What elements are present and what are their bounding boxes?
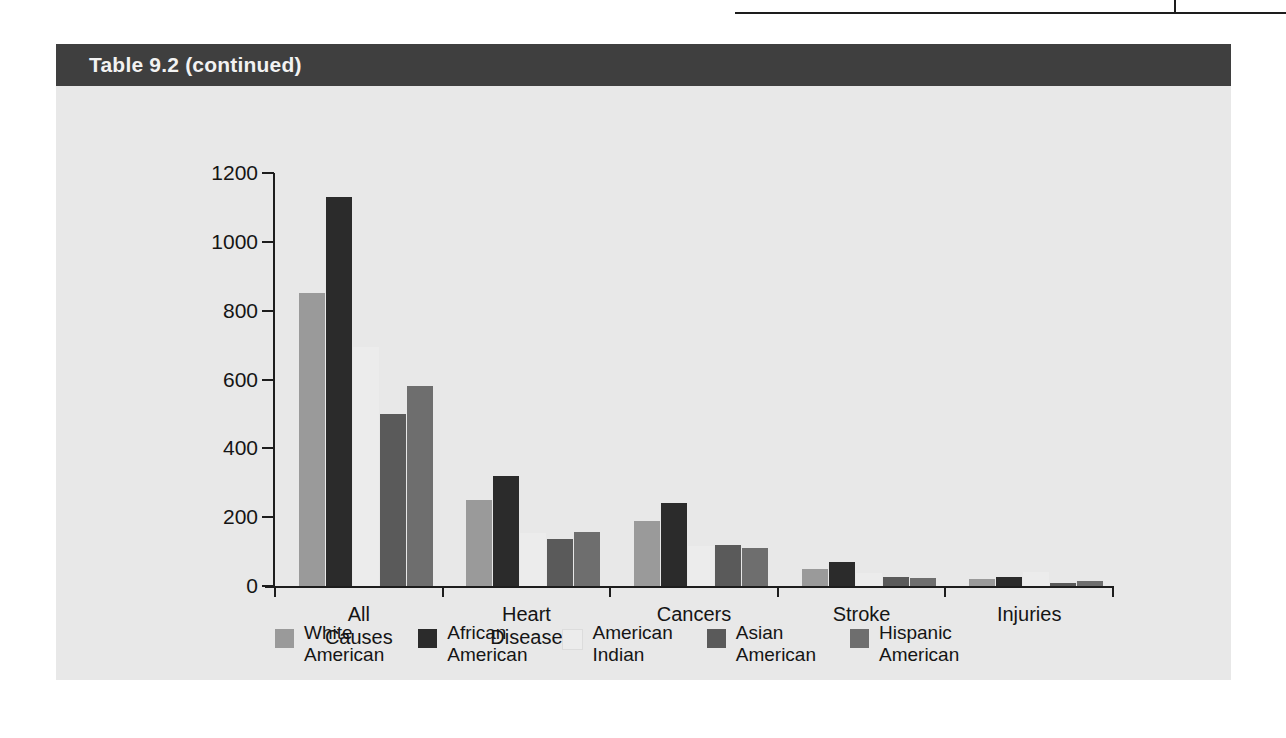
bar <box>688 546 714 586</box>
y-axis-tick <box>262 379 274 381</box>
bar-chart: 020040060080010001200 All CausesHeart Di… <box>56 86 1231 680</box>
bar <box>299 293 325 586</box>
bar <box>326 197 352 586</box>
y-axis-tick <box>262 310 274 312</box>
bar-group <box>802 173 936 586</box>
legend-label: Hispanic American <box>879 622 959 666</box>
x-axis-line <box>265 586 1113 588</box>
table-panel: Table 9.2 (continued) 020040060080010001… <box>56 44 1231 680</box>
page-top-rule <box>735 12 1286 14</box>
bar <box>715 545 741 586</box>
bar <box>634 521 660 586</box>
y-axis-tick-label: 1200 <box>211 161 258 185</box>
legend-swatch-icon <box>275 629 294 648</box>
legend-label: White American <box>304 622 384 666</box>
y-axis-tick-label: 200 <box>223 505 258 529</box>
bar <box>1077 581 1103 586</box>
bar <box>742 548 768 586</box>
y-axis-tick <box>262 516 274 518</box>
y-axis-tick-label: 1000 <box>211 230 258 254</box>
y-axis-tick-label: 600 <box>223 368 258 392</box>
bar <box>353 347 379 586</box>
y-axis-line <box>273 173 275 588</box>
plot-area: 020040060080010001200 All CausesHeart Di… <box>275 173 1113 586</box>
bar-group <box>466 173 600 586</box>
bar <box>520 533 546 586</box>
bar <box>407 386 433 586</box>
legend-item[interactable]: American Indian <box>562 622 673 666</box>
bar <box>574 532 600 586</box>
y-axis-tick-label: 0 <box>246 574 258 598</box>
bar-group <box>969 173 1103 586</box>
legend-item[interactable]: Hispanic American <box>850 622 959 666</box>
bar <box>380 414 406 586</box>
legend-swatch-icon <box>707 629 726 648</box>
bar <box>1023 572 1049 586</box>
bar <box>883 577 909 586</box>
page-top-rule-tick <box>1174 0 1176 13</box>
legend-item[interactable]: Asian American <box>707 622 816 666</box>
y-axis-tick <box>262 172 274 174</box>
y-axis-tick-label: 800 <box>223 299 258 323</box>
legend-swatch-icon <box>850 629 869 648</box>
x-axis-tick <box>609 586 611 597</box>
bar <box>1050 583 1076 586</box>
bar-group <box>299 173 433 586</box>
bar <box>829 562 855 586</box>
table-title: Table 9.2 (continued) <box>89 53 302 77</box>
legend-label: American Indian <box>593 622 673 666</box>
x-axis-tick <box>777 586 779 597</box>
bar <box>466 500 492 586</box>
x-axis-tick <box>442 586 444 597</box>
y-axis-tick <box>262 447 274 449</box>
bar <box>493 476 519 586</box>
x-axis-tick <box>1112 586 1114 597</box>
y-axis-tick <box>262 241 274 243</box>
legend-swatch-icon <box>562 629 583 650</box>
bar <box>996 577 1022 586</box>
table-header-bar: Table 9.2 (continued) <box>56 44 1231 86</box>
legend-label: African American <box>447 622 527 666</box>
bar <box>802 569 828 586</box>
x-axis-tick <box>274 586 276 597</box>
bar <box>910 578 936 586</box>
legend-label: Asian American <box>736 622 816 666</box>
bar <box>661 503 687 586</box>
legend-item[interactable]: African American <box>418 622 527 666</box>
bar <box>547 539 573 586</box>
chart-legend: White AmericanAfrican AmericanAmerican I… <box>275 622 993 666</box>
bar-group <box>634 173 768 586</box>
y-axis-tick-label: 400 <box>223 436 258 460</box>
legend-item[interactable]: White American <box>275 622 384 666</box>
x-axis-tick <box>944 586 946 597</box>
y-axis-tick <box>262 585 274 587</box>
legend-swatch-icon <box>418 629 437 648</box>
bar <box>856 573 882 586</box>
bar <box>969 579 995 586</box>
